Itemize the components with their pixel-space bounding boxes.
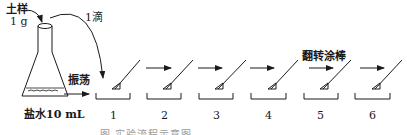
erlenmeyer-flask-icon [22,24,68,97]
plate-2 [147,60,193,99]
plate-number-1: 1 [110,110,117,122]
plate-number-3: 3 [213,110,220,122]
soil-arrow [26,10,42,22]
plate-4 [251,60,298,99]
plate-1 [96,60,140,99]
one-drop-label: 1滴 [85,12,103,24]
plate-6 [355,60,402,99]
saline-label: 盐水10 mL [24,109,85,121]
plate-number-4: 4 [265,110,272,122]
flip-spreader-label: 翻转涂棒 [302,51,346,63]
plate-number-6: 6 [369,110,376,122]
soil-mass-label: 1 g [10,16,28,28]
plate-number-5: 5 [317,110,324,122]
figure-caption: 图 实验流程示意图 [100,126,310,135]
plate-number-2: 2 [161,110,168,122]
plate-5 [304,60,351,99]
shake-label: 振荡 [68,75,90,87]
plate-3 [199,60,246,99]
